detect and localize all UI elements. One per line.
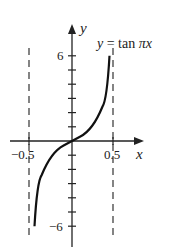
tick-label-pos-six: 6 bbox=[57, 48, 64, 63]
tick-label-neg-six: −6 bbox=[49, 219, 63, 234]
x-axis-arrow-icon bbox=[134, 137, 144, 145]
y-axis-arrow-icon bbox=[68, 24, 76, 34]
x-axis-label: x bbox=[135, 146, 143, 162]
y-axis-label: y bbox=[78, 20, 87, 36]
tan-function-plot: y y = tan πx 6 −6 −0.5 0.5 x bbox=[0, 0, 181, 252]
tick-label-neg-half: −0.5 bbox=[11, 147, 35, 162]
equation-label: y = tan πx bbox=[95, 36, 153, 51]
tick-label-pos-half: 0.5 bbox=[104, 147, 120, 162]
